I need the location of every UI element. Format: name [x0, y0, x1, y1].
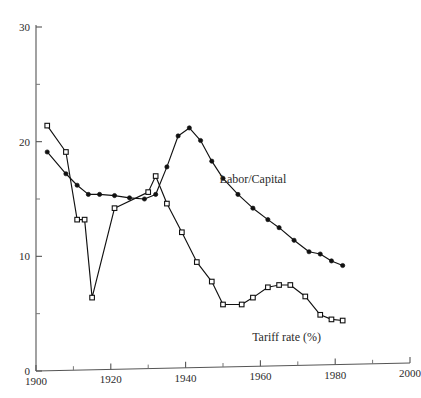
data-point-circle [236, 192, 240, 196]
data-point-circle [112, 193, 116, 197]
data-point-square [112, 206, 117, 211]
data-point-square [165, 201, 170, 206]
data-point-circle [198, 138, 202, 142]
annotation-labor-capital: Labor/Capital [220, 172, 287, 186]
data-point-circle [318, 252, 322, 256]
series-line [47, 128, 342, 266]
data-point-circle [210, 159, 214, 163]
data-point-circle [86, 192, 90, 196]
data-point-circle [176, 134, 180, 138]
axes [36, 25, 410, 371]
data-point-circle [292, 238, 296, 242]
chart-container: 190019201940196019802000 0102030 Labor/C… [0, 0, 421, 398]
annotation-tariff-rate: Tariff rate (%) [252, 330, 321, 344]
data-point-square [90, 295, 95, 300]
data-point-square [180, 230, 185, 235]
data-point-square [251, 295, 256, 300]
data-point-square [209, 279, 214, 284]
chart-plot: 190019201940196019802000 0102030 Labor/C… [0, 0, 421, 398]
x-tick-label: 1920 [100, 373, 123, 385]
series-line [47, 126, 342, 321]
x-tick-label: 2000 [399, 367, 421, 379]
data-point-square [266, 285, 271, 290]
data-point-square [153, 174, 158, 179]
data-point-circle [251, 206, 255, 210]
series-tariff-rate [45, 123, 345, 323]
data-point-square [75, 217, 80, 222]
data-point-circle [127, 196, 131, 200]
data-point-square [195, 260, 200, 265]
data-point-square [45, 123, 50, 128]
data-point-square [221, 302, 226, 307]
y-tick-label: 10 [19, 250, 31, 262]
data-point-square [146, 190, 151, 195]
data-point-circle [277, 226, 281, 230]
series-labor-capital [45, 126, 345, 268]
series-annotations: Labor/CapitalTariff rate (%) [220, 172, 321, 344]
y-tick-label: 20 [19, 136, 31, 148]
data-point-circle [187, 126, 191, 130]
data-point-square [277, 283, 282, 288]
x-tick-label: 1940 [175, 372, 198, 384]
data-point-circle [45, 150, 49, 154]
data-point-square [329, 317, 334, 322]
x-tick-label: 1960 [249, 370, 272, 382]
data-series-group [45, 123, 345, 323]
data-point-circle [165, 165, 169, 169]
data-point-square [82, 217, 87, 222]
data-point-square [318, 313, 323, 318]
data-point-square [288, 283, 293, 288]
data-point-circle [329, 259, 333, 263]
data-point-circle [75, 183, 79, 187]
data-point-circle [154, 192, 158, 196]
y-tick-label: 0 [25, 365, 31, 377]
y-tick-label: 30 [19, 21, 31, 33]
data-point-square [239, 302, 244, 307]
data-point-circle [341, 263, 345, 267]
data-point-circle [97, 192, 101, 196]
data-point-square [303, 294, 308, 299]
data-point-circle [307, 250, 311, 254]
data-point-square [340, 318, 345, 323]
data-point-square [64, 150, 69, 155]
data-point-circle [64, 172, 68, 176]
data-point-circle [142, 197, 146, 201]
y-axis-tick-labels: 0102030 [19, 21, 31, 377]
axis-ticks [36, 27, 410, 371]
x-tick-label: 1980 [324, 369, 347, 381]
data-point-circle [266, 218, 270, 222]
